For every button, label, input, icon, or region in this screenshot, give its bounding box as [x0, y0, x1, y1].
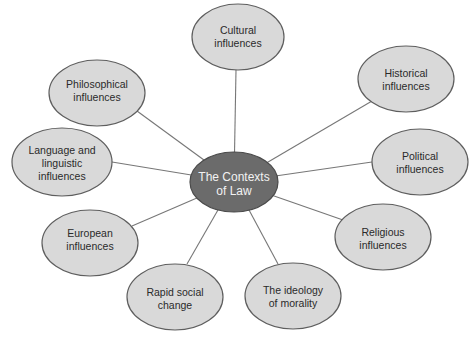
node-philosophical-label-line1: Philosophical: [66, 78, 128, 90]
node-european-label-line2: influences: [66, 240, 113, 252]
node-historical-label-line1: Historical: [384, 67, 427, 79]
node-political: Political influences: [372, 129, 468, 195]
node-ideology: The ideology of morality: [245, 263, 341, 329]
hub-contexts-of-law: The Contexts of Law: [190, 152, 278, 212]
node-historical-label-line2: influences: [382, 80, 429, 92]
node-language-label-line1: Language and: [28, 144, 95, 156]
node-philosophical-label-line2: influences: [73, 91, 120, 103]
node-religious-label-line2: influences: [359, 239, 406, 251]
node-language-label-line3: influences: [38, 170, 85, 182]
node-ideology-ellipse: [245, 263, 341, 329]
node-rapid-social-label-line2: change: [158, 299, 193, 311]
node-religious-label-line1: Religious: [361, 226, 404, 238]
node-rapid-social: Rapid social change: [127, 264, 223, 330]
node-historical: Historical influences: [358, 46, 454, 112]
node-european-label-line1: European: [67, 227, 113, 239]
node-cultural-label-line2: influences: [214, 37, 261, 49]
node-ideology-label-line2: of morality: [269, 297, 318, 309]
node-language-label-line2: linguistic: [42, 157, 82, 169]
contexts-of-law-diagram: Cultural influences Historical influence…: [0, 0, 472, 340]
node-religious: Religious influences: [335, 204, 431, 270]
node-historical-ellipse: [358, 46, 454, 112]
node-political-label-line1: Political: [402, 150, 438, 162]
node-language: Language and linguistic influences: [12, 128, 112, 196]
node-political-label-line2: influences: [396, 163, 443, 175]
node-ideology-label-line1: The ideology: [263, 284, 324, 296]
node-political-ellipse: [372, 129, 468, 195]
node-rapid-social-label-line1: Rapid social: [146, 286, 203, 298]
node-cultural: Cultural influences: [192, 4, 284, 70]
node-cultural-label-line1: Cultural: [220, 24, 256, 36]
node-philosophical: Philosophical influences: [49, 60, 145, 126]
hub-label-line2: of Law: [216, 184, 252, 198]
hub-label-line1: The Contexts: [198, 170, 269, 184]
node-european: European influences: [42, 210, 138, 276]
